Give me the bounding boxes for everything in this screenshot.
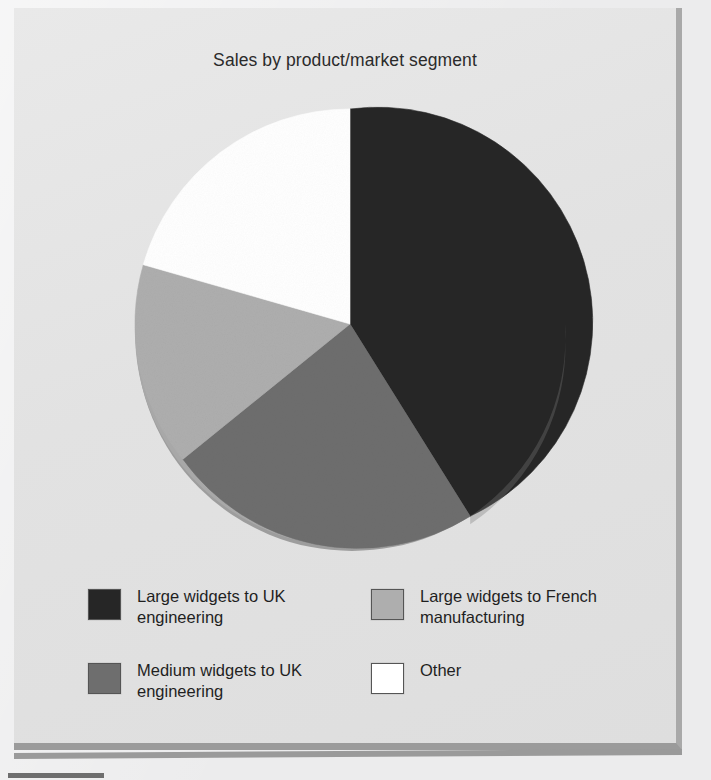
legend-swatch-icon	[88, 589, 121, 620]
page-corner-mark	[8, 773, 104, 778]
legend-swatch-icon	[371, 589, 404, 620]
legend-swatch-icon	[371, 663, 404, 694]
legend-item-label: Other	[420, 660, 461, 681]
chart-title: Sales by product/market segment	[14, 50, 676, 71]
legend-item-large-widgets-french-manufacturing[interactable]: Large widgets to French manufacturing	[371, 586, 648, 660]
legend-item-medium-widgets-uk-engineering[interactable]: Medium widgets to UK engineering	[88, 660, 371, 734]
chart-legend: Large widgets to UK engineering Large wi…	[88, 586, 648, 734]
legend-item-label: Large widgets to UK engineering	[137, 586, 286, 628]
legend-item-label: Large widgets to French manufacturing	[420, 586, 597, 628]
scanned-page-background: Sales by product/market segment	[0, 0, 711, 780]
legend-item-other[interactable]: Other	[371, 660, 648, 734]
legend-swatch-icon	[88, 663, 121, 694]
legend-item-label: Medium widgets to UK engineering	[137, 660, 302, 702]
page-bottom-rule	[14, 749, 682, 759]
legend-item-large-widgets-uk-engineering[interactable]: Large widgets to UK engineering	[88, 586, 371, 660]
